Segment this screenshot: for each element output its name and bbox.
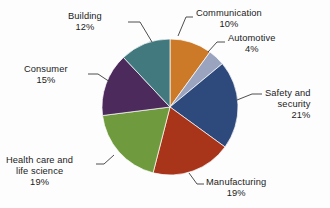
leader-line-building: [128, 22, 152, 42]
slice-label-health-care-and-life-science: Health care and life science 19%: [6, 155, 73, 189]
slice-label-communication-name: Communication: [196, 8, 262, 19]
slice-label-consumer: Consumer 15%: [24, 64, 68, 86]
pie-slice-group: [102, 39, 238, 175]
slice-label-safety-and-security: Safety and security 21%: [265, 88, 310, 122]
slice-label-communication-percent: 10%: [196, 19, 262, 30]
leader-line-health: [96, 155, 114, 164]
slice-label-safety-name-line2: security: [265, 99, 310, 110]
slice-label-safety-percent: 21%: [265, 110, 310, 121]
slice-label-consumer-name: Consumer: [24, 64, 68, 75]
leader-line-communication: [178, 17, 193, 36]
slice-label-automotive-percent: 4%: [228, 44, 276, 55]
pie-chart-figure: Communication 10% Automotive 4% Safety a…: [0, 0, 330, 208]
slice-label-consumer-percent: 15%: [24, 75, 68, 86]
leader-line-automotive: [208, 42, 225, 52]
slice-label-manufacturing: Manufacturing 19%: [206, 177, 266, 199]
slice-label-health-name-line1: Health care and: [6, 155, 73, 166]
slice-label-safety-name-line1: Safety and: [265, 88, 310, 99]
leader-line-manufacturing: [189, 173, 204, 184]
slice-label-building-name: Building: [68, 11, 102, 22]
slice-label-manufacturing-name: Manufacturing: [206, 177, 266, 188]
slice-label-communication: Communication 10%: [196, 8, 262, 30]
leader-line-safety: [237, 94, 262, 100]
leader-line-consumer: [88, 74, 110, 82]
slice-label-manufacturing-percent: 19%: [206, 188, 266, 199]
slice-label-building-percent: 12%: [68, 22, 102, 33]
slice-label-automotive-name: Automotive: [228, 33, 276, 44]
slice-label-health-percent: 19%: [6, 177, 73, 188]
slice-label-building: Building 12%: [68, 11, 102, 33]
slice-label-health-name-line2: life science: [6, 166, 73, 177]
slice-label-automotive: Automotive 4%: [228, 33, 276, 55]
